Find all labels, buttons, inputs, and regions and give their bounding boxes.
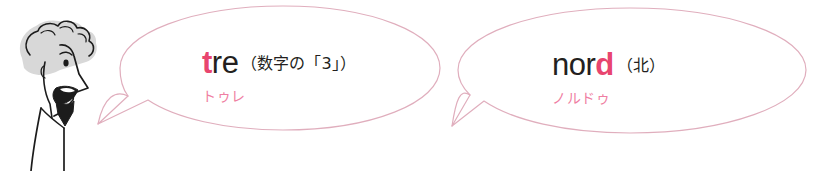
eye <box>63 60 68 67</box>
bubble-two-word-rest: nor <box>552 47 595 82</box>
beard <box>56 101 74 126</box>
bubble-two-reading: ノルドゥ <box>552 91 665 105</box>
bubble-two-text-block: nord（北） ノルドゥ <box>552 49 665 105</box>
bubble-one-reading: トゥレ <box>202 89 356 103</box>
bubble-one-gloss: （数字の「3」） <box>241 54 355 73</box>
bubble-two-word: nord（北） <box>552 49 665 80</box>
bubble-one-word-rest: re <box>212 45 239 80</box>
neck-left <box>31 108 41 171</box>
bubble-one-word-accent: t <box>202 45 212 80</box>
illustration-scene: tre（数字の「3」） トゥレ nord（北） ノルドゥ <box>0 0 821 171</box>
speaker-illustration <box>0 0 821 171</box>
bubble-one-text-block: tre（数字の「3」） トゥレ <box>202 47 356 103</box>
bubble-one-word: tre（数字の「3」） <box>202 47 356 78</box>
bubble-two-gloss: （北） <box>617 56 665 75</box>
bubble-two-word-accent: d <box>595 47 613 82</box>
